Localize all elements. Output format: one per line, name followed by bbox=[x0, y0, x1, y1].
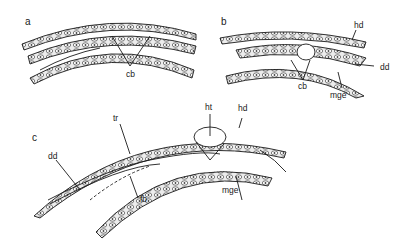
annotation-b-hd: hd bbox=[354, 21, 363, 30]
annotation-c-dd: dd bbox=[48, 152, 57, 161]
panel-label-c: c bbox=[32, 133, 37, 143]
annotation-b-cb: cb bbox=[298, 82, 307, 91]
annotation-c-hd: hd bbox=[238, 104, 247, 113]
annotation-c-fb: fb bbox=[140, 195, 147, 204]
annotation-c-mge: mge bbox=[222, 186, 239, 195]
panel-c-drawing bbox=[34, 114, 286, 238]
panel-b-drawing bbox=[220, 30, 374, 98]
panel-label-a: a bbox=[25, 17, 31, 27]
annotation-b-dd: dd bbox=[380, 63, 389, 72]
annotation-c-ht: ht bbox=[205, 103, 212, 112]
histology-drawing bbox=[0, 0, 412, 248]
annotation-b-mge: mge bbox=[330, 91, 347, 100]
annotation-c-tr: tr bbox=[113, 114, 118, 123]
panel-a-drawing bbox=[22, 23, 196, 84]
panel-label-b: b bbox=[221, 17, 227, 27]
annotation-a-cb: cb bbox=[126, 70, 135, 79]
